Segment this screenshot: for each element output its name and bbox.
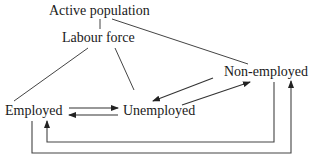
labour-market-diagram: Active population Labour force Non-emplo… — [0, 0, 310, 164]
node-active-population: Active population — [49, 3, 150, 19]
node-employed: Employed — [5, 103, 63, 119]
edge-labour-to-unemployed — [115, 48, 134, 90]
diagram-edges — [0, 0, 310, 164]
node-unemployed: Unemployed — [123, 103, 195, 119]
node-non-employed: Non-employed — [224, 64, 308, 80]
node-labour-force: Labour force — [62, 30, 135, 46]
edge-labour-to-employed — [14, 48, 88, 101]
